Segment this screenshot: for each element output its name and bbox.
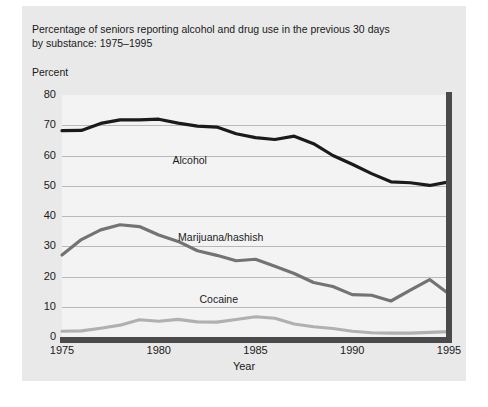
x-axis-title: Year bbox=[22, 360, 466, 372]
x-axis-tick-label: 1985 bbox=[243, 344, 267, 356]
y-axis-labels: 01020304050607080 bbox=[26, 95, 56, 337]
y-axis-tick-label: 30 bbox=[30, 239, 56, 251]
data-lines bbox=[62, 95, 449, 337]
figure-panel: Percentage of seniors reporting alcohol … bbox=[22, 6, 466, 381]
x-axis-labels: 19751980198519901995 bbox=[62, 344, 462, 360]
y-axis-tick-label: 60 bbox=[30, 149, 56, 161]
x-axis-tick-label: 1990 bbox=[340, 344, 364, 356]
series-line bbox=[62, 119, 449, 185]
series-label: Cocaine bbox=[199, 293, 238, 305]
x-axis-tick-label: 1975 bbox=[50, 344, 74, 356]
chart-title-line-1: Percentage of seniors reporting alcohol … bbox=[32, 22, 432, 36]
x-axis-tick-label: 1980 bbox=[147, 344, 171, 356]
y-axis-tick-label: 40 bbox=[30, 209, 56, 221]
y-axis-tick-label: 0 bbox=[30, 330, 56, 342]
y-axis-tick-label: 50 bbox=[30, 179, 56, 191]
y-axis-right-line bbox=[446, 92, 452, 343]
y-axis-tick-label: 70 bbox=[30, 118, 56, 130]
series-label: Alcohol bbox=[172, 154, 206, 166]
x-axis-line bbox=[60, 337, 452, 343]
chart-title-line-2: by substance: 1975–1995 bbox=[32, 36, 432, 50]
chart-title: Percentage of seniors reporting alcohol … bbox=[32, 22, 432, 50]
y-axis-tick-label: 10 bbox=[30, 300, 56, 312]
series-line bbox=[62, 317, 449, 333]
y-axis-title: Percent bbox=[32, 66, 68, 78]
series-label: Marijuana/hashish bbox=[178, 231, 263, 243]
y-axis-tick-label: 80 bbox=[30, 88, 56, 100]
x-axis-tick-label: 1995 bbox=[437, 344, 461, 356]
plot-area: AlcoholMarijuana/hashishCocaine bbox=[62, 95, 449, 337]
y-axis-tick-label: 20 bbox=[30, 270, 56, 282]
